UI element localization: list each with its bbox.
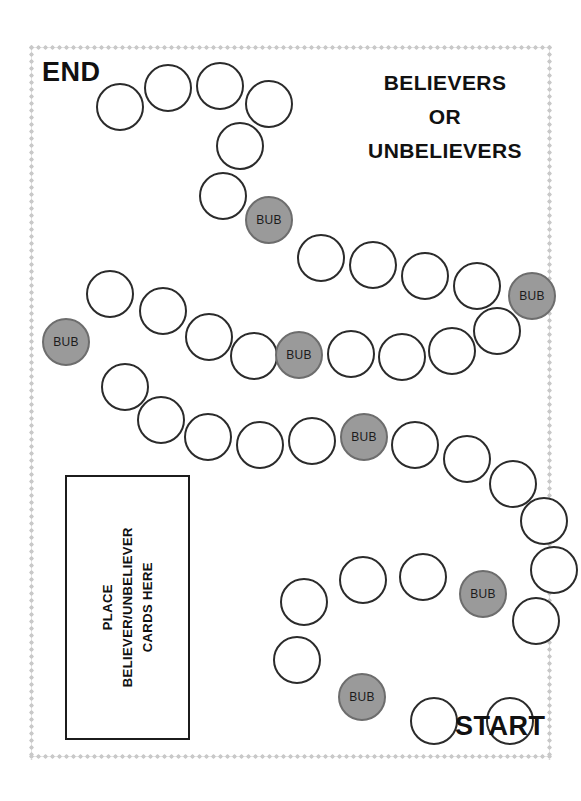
card-placement-box[interactable]: PLACE BELIEVER/UNBELIEVER CARDS HERE bbox=[65, 475, 190, 740]
board-space[interactable] bbox=[489, 460, 537, 508]
board-space[interactable] bbox=[245, 80, 293, 128]
board-space[interactable] bbox=[199, 172, 247, 220]
board-space-label: BUB bbox=[349, 691, 374, 703]
board-space[interactable] bbox=[216, 122, 264, 170]
board-space-label: BUB bbox=[351, 431, 376, 443]
board-space[interactable] bbox=[86, 270, 134, 318]
board-space[interactable] bbox=[327, 330, 375, 378]
board-space[interactable] bbox=[297, 234, 345, 282]
board-space-bub[interactable]: BUB bbox=[338, 673, 386, 721]
board-space[interactable] bbox=[184, 413, 232, 461]
board-space[interactable] bbox=[378, 333, 426, 381]
board-space-label: BUB bbox=[286, 349, 311, 361]
board-space[interactable] bbox=[230, 332, 278, 380]
card-box-line-3: CARDS HERE bbox=[138, 527, 158, 687]
frame-edge-bottom bbox=[28, 753, 553, 760]
board-space[interactable] bbox=[288, 417, 336, 465]
board-space[interactable] bbox=[512, 597, 560, 645]
board-space[interactable] bbox=[196, 62, 244, 110]
board-space[interactable] bbox=[473, 307, 521, 355]
board-space-label: BUB bbox=[519, 290, 544, 302]
board-space-bub[interactable]: BUB bbox=[245, 196, 293, 244]
board-space[interactable] bbox=[144, 64, 192, 112]
board-space[interactable] bbox=[530, 546, 578, 594]
board-space[interactable] bbox=[443, 435, 491, 483]
board-title: BELIEVERS OR UNBELIEVERS bbox=[335, 66, 555, 168]
start-label: START bbox=[455, 711, 546, 742]
card-placement-text: PLACE BELIEVER/UNBELIEVER CARDS HERE bbox=[97, 527, 157, 687]
board-space-bub[interactable]: BUB bbox=[508, 272, 556, 320]
board-space[interactable] bbox=[236, 421, 284, 469]
card-box-line-2: BELIEVER/UNBELIEVER bbox=[117, 527, 137, 687]
board-space[interactable] bbox=[137, 396, 185, 444]
board-space[interactable] bbox=[273, 636, 321, 684]
board-space[interactable] bbox=[453, 262, 501, 310]
board-space[interactable] bbox=[399, 553, 447, 601]
board-space[interactable] bbox=[520, 497, 568, 545]
board-space[interactable] bbox=[280, 578, 328, 626]
board-space-bub[interactable]: BUB bbox=[459, 570, 507, 618]
end-label: END bbox=[42, 57, 101, 88]
board-space[interactable] bbox=[410, 697, 458, 745]
board-space[interactable] bbox=[349, 241, 397, 289]
board-space-bub[interactable]: BUB bbox=[275, 331, 323, 379]
board-space[interactable] bbox=[339, 556, 387, 604]
title-line-1: BELIEVERS bbox=[335, 66, 555, 100]
game-board: END BELIEVERS OR UNBELIEVERS BUBBUBBUBBU… bbox=[0, 0, 581, 801]
title-line-2: OR bbox=[335, 100, 555, 134]
frame-edge-left bbox=[28, 44, 35, 760]
frame-edge-top bbox=[28, 44, 553, 51]
board-space-label: BUB bbox=[470, 588, 495, 600]
board-space[interactable] bbox=[96, 83, 144, 131]
board-space[interactable] bbox=[101, 363, 149, 411]
title-line-3: UNBELIEVERS bbox=[335, 134, 555, 168]
board-space-label: BUB bbox=[256, 214, 281, 226]
board-space[interactable] bbox=[185, 313, 233, 361]
board-space-bub[interactable]: BUB bbox=[340, 413, 388, 461]
board-space[interactable] bbox=[391, 421, 439, 469]
board-space-bub[interactable]: BUB bbox=[42, 318, 90, 366]
board-space[interactable] bbox=[428, 327, 476, 375]
card-box-line-1: PLACE bbox=[97, 527, 117, 687]
board-space[interactable] bbox=[139, 287, 187, 335]
board-space-label: BUB bbox=[53, 336, 78, 348]
board-space[interactable] bbox=[401, 252, 449, 300]
